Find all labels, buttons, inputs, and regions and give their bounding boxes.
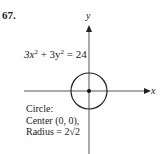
note-radius: Radius = 2√2 xyxy=(26,126,80,137)
eq-rhs: = 24 xyxy=(64,48,87,60)
y-axis-arrow-icon xyxy=(86,25,92,32)
note-shape: Circle: xyxy=(26,103,53,114)
center-point xyxy=(87,89,91,93)
eq-term-2: + 3y xyxy=(38,48,61,60)
x-axis-label: x xyxy=(151,85,155,96)
problem-number: 67. xyxy=(2,9,16,21)
eq-term-1: 3x xyxy=(24,48,34,60)
equation: 3x2 + 3y2 = 24 xyxy=(24,48,87,60)
y-axis-label: y xyxy=(86,10,90,21)
graph xyxy=(0,0,160,154)
note-center: Center (0, 0), xyxy=(26,115,79,126)
x-axis-arrow-icon xyxy=(144,88,151,94)
